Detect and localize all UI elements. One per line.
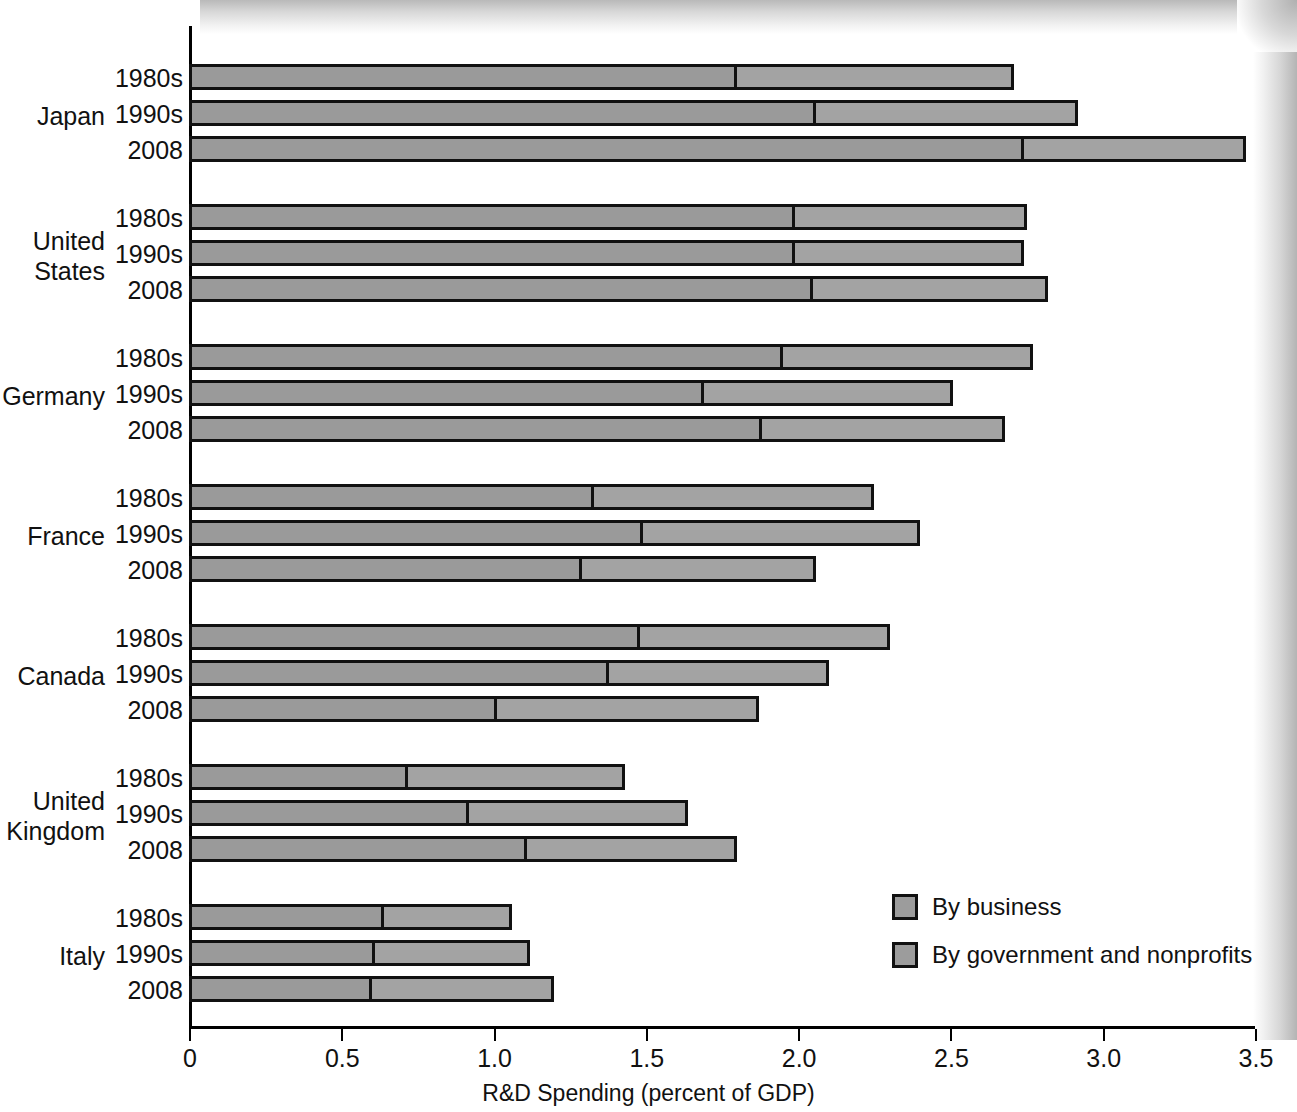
x-tick-label-2: 1.0 — [477, 1044, 512, 1072]
bar-segment-business — [192, 627, 640, 647]
bar-japan-1990s — [189, 100, 1078, 126]
bar-segment-government — [737, 67, 1011, 87]
period-label-italy-1990s: 1990s — [115, 941, 183, 967]
x-tick-2 — [494, 1029, 496, 1041]
bar-france-1980s — [189, 484, 874, 510]
bar-united-kingdom-1980s — [189, 764, 625, 790]
x-tick-3 — [646, 1029, 648, 1041]
bar-canada-2008 — [189, 696, 759, 722]
bar-segment-business — [192, 559, 582, 579]
legend-item-business: By business — [892, 893, 1252, 921]
bar-segment-government — [816, 103, 1075, 123]
period-label-italy-1980s: 1980s — [115, 905, 183, 931]
legend-swatch-business-icon — [892, 894, 918, 920]
bar-segment-government — [795, 207, 1023, 227]
bar-united-kingdom-1990s — [189, 800, 688, 826]
bar-italy-1990s — [189, 940, 530, 966]
bar-segment-government — [1024, 139, 1243, 159]
bar-segment-business — [192, 487, 594, 507]
legend-swatch-government-icon — [892, 942, 918, 968]
bar-france-1990s — [189, 520, 920, 546]
legend-label-government: By government and nonprofits — [932, 941, 1252, 969]
x-tick-5 — [950, 1029, 952, 1041]
bar-segment-government — [704, 383, 951, 403]
bar-segment-business — [192, 907, 384, 927]
bar-segment-business — [192, 279, 813, 299]
bar-italy-1980s — [189, 904, 512, 930]
bar-segment-business — [192, 67, 737, 87]
bar-japan-2008 — [189, 136, 1246, 162]
bar-segment-business — [192, 767, 408, 787]
chart-figure: 00.51.01.52.02.53.03.5 1980s1990s2008Jap… — [0, 0, 1297, 1112]
bar-segment-business — [192, 839, 527, 859]
bar-germany-2008 — [189, 416, 1005, 442]
scan-edge-top-artifact — [200, 0, 1297, 34]
x-axis-title: R&D Spending (percent of GDP) — [0, 1080, 1297, 1107]
country-label-united-states: UnitedStates — [33, 226, 105, 286]
bar-segment-government — [582, 559, 814, 579]
x-tick-label-3: 1.5 — [629, 1044, 664, 1072]
period-label-canada-1990s: 1990s — [115, 661, 183, 687]
bar-segment-business — [192, 699, 497, 719]
period-label-united-states-1990s: 1990s — [115, 241, 183, 267]
bar-segment-government — [640, 627, 887, 647]
x-tick-6 — [1103, 1029, 1105, 1041]
x-tick-4 — [798, 1029, 800, 1041]
bar-segment-government — [594, 487, 871, 507]
country-label-italy: Italy — [59, 941, 105, 971]
x-tick-label-0: 0 — [183, 1044, 197, 1072]
country-label-germany: Germany — [2, 381, 105, 411]
x-tick-label-1: 0.5 — [325, 1044, 360, 1072]
period-label-france-1980s: 1980s — [115, 485, 183, 511]
bar-segment-government — [469, 803, 685, 823]
bar-united-states-1990s — [189, 240, 1024, 266]
bar-france-2008 — [189, 556, 816, 582]
bar-segment-business — [192, 103, 816, 123]
period-label-united-kingdom-1990s: 1990s — [115, 801, 183, 827]
period-label-japan-1990s: 1990s — [115, 101, 183, 127]
period-label-canada-1980s: 1980s — [115, 625, 183, 651]
period-label-france-2008: 2008 — [127, 557, 183, 583]
bar-segment-government — [609, 663, 825, 683]
bar-segment-government — [408, 767, 621, 787]
country-label-france: France — [27, 521, 105, 551]
x-tick-label-4: 2.0 — [782, 1044, 817, 1072]
period-label-germany-1980s: 1980s — [115, 345, 183, 371]
x-tick-label-7: 3.5 — [1239, 1044, 1274, 1072]
bar-segment-government — [375, 943, 527, 963]
bar-segment-business — [192, 243, 795, 263]
bar-segment-government — [384, 907, 509, 927]
scan-edge-right-artifact — [1253, 0, 1297, 1040]
legend-item-government: By government and nonprofits — [892, 941, 1252, 969]
period-label-france-1990s: 1990s — [115, 521, 183, 547]
period-label-japan-1980s: 1980s — [115, 65, 183, 91]
country-label-canada: Canada — [17, 661, 105, 691]
bar-segment-government — [813, 279, 1045, 299]
bar-segment-business — [192, 943, 375, 963]
bar-segment-business — [192, 347, 783, 367]
bar-segment-business — [192, 523, 643, 543]
legend-label-business: By business — [932, 893, 1061, 921]
x-tick-label-6: 3.0 — [1086, 1044, 1121, 1072]
bar-united-kingdom-2008 — [189, 836, 737, 862]
bar-germany-1980s — [189, 344, 1033, 370]
period-label-united-kingdom-1980s: 1980s — [115, 765, 183, 791]
bar-united-states-2008 — [189, 276, 1048, 302]
bar-segment-business — [192, 979, 372, 999]
bar-canada-1980s — [189, 624, 890, 650]
bar-segment-government — [783, 347, 1030, 367]
bar-segment-government — [762, 419, 1003, 439]
period-label-germany-2008: 2008 — [127, 417, 183, 443]
bar-segment-government — [497, 699, 756, 719]
bar-italy-2008 — [189, 976, 554, 1002]
period-label-united-states-2008: 2008 — [127, 277, 183, 303]
period-label-japan-2008: 2008 — [127, 137, 183, 163]
country-label-united-kingdom: UnitedKingdom — [6, 786, 105, 846]
bar-canada-1990s — [189, 660, 829, 686]
x-tick-1 — [341, 1029, 343, 1041]
period-label-united-states-1980s: 1980s — [115, 205, 183, 231]
bar-japan-1980s — [189, 64, 1014, 90]
period-label-canada-2008: 2008 — [127, 697, 183, 723]
bar-segment-business — [192, 419, 762, 439]
bar-segment-business — [192, 139, 1024, 159]
